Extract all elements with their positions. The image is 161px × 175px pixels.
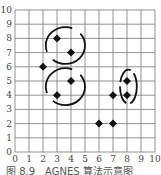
right-cluster-arc [120,70,137,104]
x-tick-label: 9 [138,154,144,164]
data-point-diamond [109,120,117,128]
x-tick-label: 10 [149,154,161,164]
data-point-diamond [123,91,131,99]
data-point-diamond [67,49,75,57]
y-tick-label: 10 [1,5,13,15]
y-tick-label: 2 [6,119,12,129]
data-point-diamond [39,63,47,71]
figure-caption: 图 8.9 AGNES 算法示意图 [6,163,133,175]
data-point-diamond [109,91,117,99]
y-tick-label: 1 [6,133,12,143]
y-tick-label: 4 [6,90,12,100]
data-point-diamond [123,77,131,85]
data-point-diamond [53,34,61,42]
y-tick-label: 6 [6,62,12,72]
y-tick-label: 7 [6,48,12,58]
y-tick-label: 8 [6,33,12,43]
y-tick-label: 9 [6,19,12,29]
scatter-grid-diagram: 012345678910012345678910 [0,0,161,175]
y-tick-label: 5 [6,76,12,86]
upper-cluster-arc [46,27,85,64]
y-tick-label: 3 [6,104,12,114]
y-tick-label: 0 [6,147,12,157]
data-point-diamond [53,91,61,99]
data-point-diamond [67,77,75,85]
data-point-diamond [95,120,103,128]
lower-cluster-arc [46,68,85,105]
